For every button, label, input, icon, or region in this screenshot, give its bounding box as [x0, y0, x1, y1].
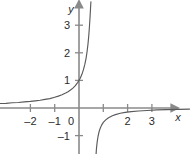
curve-group: [0, 2, 190, 154]
y-tick-label: –1: [58, 130, 70, 142]
x-tick-label: –2: [24, 115, 36, 127]
x-tick-label: 2: [125, 115, 131, 127]
x-tick-label: 3: [149, 115, 155, 127]
tick-label-group: –2–1023–1123: [24, 19, 155, 141]
x-tick-label: –1: [49, 115, 61, 127]
y-tick-label: 2: [64, 47, 70, 59]
x-axis-label: x: [174, 111, 181, 123]
y-tick-label: 1: [64, 74, 70, 86]
y-tick-label: 3: [64, 19, 70, 31]
function-graph-figure: –2–1023–1123 x y: [0, 0, 190, 154]
axes-group: [0, 7, 172, 154]
y-axis-label: y: [67, 3, 75, 15]
x-tick-label: 0: [68, 115, 74, 127]
plot-area: –2–1023–1123 x y: [0, 0, 190, 154]
